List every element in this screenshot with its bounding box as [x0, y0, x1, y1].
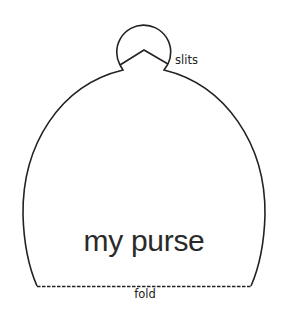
- slit-v-line: [120, 50, 168, 65]
- tab-circle: [117, 25, 171, 65]
- slits-label: slits: [175, 55, 198, 67]
- purse-title: my purse: [0, 226, 286, 256]
- fold-label: fold: [0, 289, 286, 301]
- purse-template-outline: [0, 0, 286, 320]
